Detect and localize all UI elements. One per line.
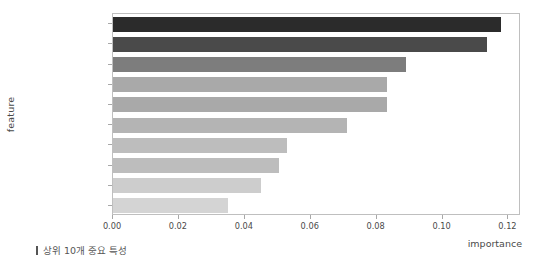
bar-customer_class_VVIP [113, 138, 287, 153]
bar-youtube_interest [113, 158, 279, 173]
bar-disney_interest [113, 77, 387, 92]
y-tick-mark [108, 84, 112, 85]
x-tick-mark [376, 215, 377, 219]
bar-row [113, 54, 519, 74]
x-tick-mark [178, 215, 179, 219]
caption-accent-bar [36, 246, 38, 255]
y-axis-title: feature [4, 13, 18, 215]
bar-row [113, 115, 519, 135]
x-tick-label-0.12: 0.12 [487, 221, 527, 231]
bar-row [113, 95, 519, 115]
x-tick-label-0.08: 0.08 [356, 221, 396, 231]
bar-row [113, 196, 519, 216]
bar-netflix_interest [113, 97, 387, 112]
x-tick-label-0.10: 0.10 [422, 221, 462, 231]
y-tick-mark [108, 205, 112, 206]
x-tick-mark [507, 215, 508, 219]
x-tick-mark [244, 215, 245, 219]
x-tick-label-0.06: 0.06 [290, 221, 330, 231]
bar-customer_class_VIP [113, 118, 347, 133]
bar-row [113, 176, 519, 196]
bar-row [113, 14, 519, 34]
x-axis-title: importance [468, 238, 522, 249]
x-tick-label-0.00: 0.00 [92, 221, 132, 231]
x-tick-mark [310, 215, 311, 219]
chart-caption: 상위 10개 중요 특성 [36, 243, 127, 257]
bar-r3m_data_use [113, 37, 487, 52]
y-tick-mark [108, 23, 112, 24]
y-tick-mark [108, 124, 112, 125]
bar-row [113, 135, 519, 155]
y-tick-mark [108, 165, 112, 166]
bar-row [113, 75, 519, 95]
caption-text: 상위 10개 중요 특성 [43, 245, 127, 256]
y-tick-mark [108, 64, 112, 65]
importance-bar-chart: feature importance 상위 10개 중요 특성 r3m_avg_… [0, 0, 546, 273]
y-tick-mark [108, 144, 112, 145]
y-tick-mark [108, 185, 112, 186]
y-tick-mark [108, 104, 112, 105]
x-tick-mark [442, 215, 443, 219]
bar-tving_interest [113, 57, 406, 72]
y-tick-mark [108, 43, 112, 44]
x-tick-label-0.02: 0.02 [158, 221, 198, 231]
plot-area [112, 13, 520, 215]
bar-r3m_avg_bill [113, 17, 501, 32]
bar-row [113, 34, 519, 54]
bar-customer_class_Gold [113, 198, 228, 213]
x-tick-mark [112, 215, 113, 219]
y-axis-title-label: feature [6, 96, 17, 132]
bar-customer_class_Silver [113, 178, 261, 193]
x-tick-label-0.04: 0.04 [224, 221, 264, 231]
bar-row [113, 155, 519, 175]
